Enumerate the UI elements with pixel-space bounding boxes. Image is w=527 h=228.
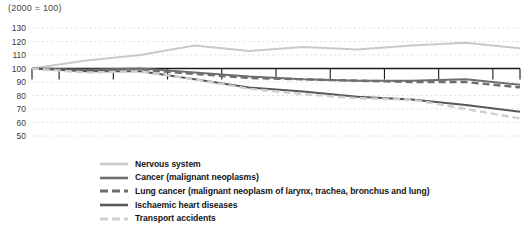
- y-axis-tick-label: 80: [17, 91, 27, 101]
- line-chart-svg: 5060708090100110120130200020012002200320…: [0, 20, 527, 145]
- y-axis-tick-label: 60: [17, 118, 27, 128]
- legend-label-ischaemic-heart-diseases: Ischaemic heart diseases: [135, 200, 237, 210]
- index-base-note: (2000 = 100): [8, 3, 62, 13]
- legend-label-nervous-system: Nervous system: [135, 159, 201, 169]
- legend-swatch-ischaemic-heart-diseases: [100, 198, 128, 211]
- y-axis-tick-label: 90: [17, 77, 27, 87]
- legend-item-nervous-system: Nervous system: [100, 157, 520, 171]
- y-axis-tick-label: 50: [17, 131, 27, 141]
- legend-item-ischaemic-heart-diseases: Ischaemic heart diseases: [100, 198, 520, 212]
- legend-item-transport-accidents: Transport accidents: [100, 211, 520, 225]
- legend-label-cancer: Cancer (malignant neoplasms): [135, 172, 259, 182]
- legend-label-lung-cancer: Lung cancer (malignant neoplasm of laryn…: [135, 186, 429, 196]
- y-axis-tick-label: 130: [12, 23, 26, 33]
- y-axis-tick-label: 120: [12, 37, 26, 47]
- series-line: [32, 43, 520, 69]
- legend-swatch-lung-cancer: [100, 184, 128, 197]
- chart-container: (2000 = 100) 506070809010011012013020002…: [0, 0, 527, 228]
- y-axis-tick-label: 70: [17, 104, 27, 114]
- chart-legend: Nervous system Cancer (malignant neoplas…: [100, 157, 520, 225]
- legend-swatch-transport-accidents: [100, 212, 128, 225]
- legend-swatch-cancer: [100, 171, 128, 184]
- legend-swatch-nervous-system: [100, 157, 128, 170]
- plot-area: 5060708090100110120130200020012002200320…: [0, 20, 527, 145]
- legend-label-transport-accidents: Transport accidents: [135, 213, 216, 223]
- y-axis-tick-label: 110: [12, 50, 26, 60]
- legend-item-cancer: Cancer (malignant neoplasms): [100, 171, 520, 185]
- legend-item-lung-cancer: Lung cancer (malignant neoplasm of laryn…: [100, 184, 520, 198]
- y-axis-tick-label: 100: [12, 64, 26, 74]
